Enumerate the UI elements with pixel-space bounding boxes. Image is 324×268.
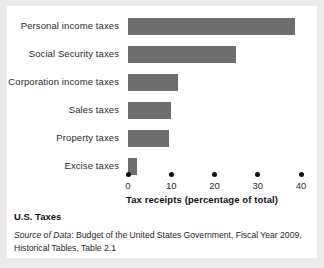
x-axis-tick-mark [299, 172, 304, 177]
bar-category-label: Social Security taxes [7, 40, 119, 68]
figure-caption: U.S. Taxes Source of Data: Budget of the… [14, 211, 314, 254]
source-label: Source of Data [14, 230, 71, 240]
x-axis-tick-label: 30 [243, 180, 273, 191]
bar-category-label: Corporation income taxes [7, 68, 119, 96]
source-note: Source of Data: Budget of the United Sta… [14, 229, 314, 254]
bar [128, 18, 295, 35]
x-axis-tick-mark [212, 172, 217, 177]
x-axis-tick-label: 40 [286, 180, 316, 191]
bar-category-label: Personal income taxes [7, 12, 119, 40]
x-axis-title: Tax receipts (percentage of total) [87, 194, 317, 205]
bar [128, 102, 171, 119]
x-axis-tick-label: 20 [200, 180, 230, 191]
caption-title: U.S. Taxes [14, 211, 314, 222]
bar-category-label: Sales taxes [7, 96, 119, 124]
bar-row: Corporation income taxes [7, 68, 317, 96]
bar-chart-plot: Personal income taxesSocial Security tax… [7, 6, 317, 198]
bar [128, 46, 236, 63]
figure-panel: Personal income taxesSocial Security tax… [7, 6, 317, 258]
bar-row: Sales taxes [7, 96, 317, 124]
bar-row: Property taxes [7, 124, 317, 152]
bar-row: Social Security taxes [7, 40, 317, 68]
x-axis-tick-mark [126, 172, 131, 177]
bar-row: Personal income taxes [7, 12, 317, 40]
bar [128, 74, 178, 91]
bar-category-label: Property taxes [7, 124, 119, 152]
x-axis-tick-mark [169, 172, 174, 177]
bar [128, 130, 169, 147]
x-axis-tick-label: 0 [113, 180, 143, 191]
x-axis-tick-mark [255, 172, 260, 177]
x-axis-tick-label: 10 [156, 180, 186, 191]
